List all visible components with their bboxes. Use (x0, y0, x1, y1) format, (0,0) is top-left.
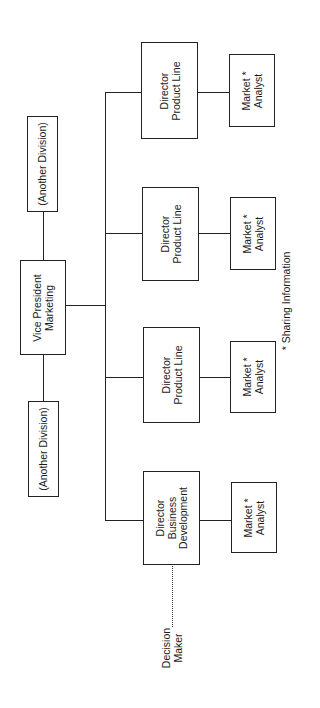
footnote-text: * Sharing Information (281, 252, 293, 351)
peer-division-label: (Another Division) (37, 122, 49, 205)
connector-bus-to-director-1 (105, 92, 141, 93)
director-box-2: Director Product Line (142, 187, 199, 281)
decision-maker-dotted-line (172, 566, 173, 627)
connector-peer-top-to-vp (43, 211, 44, 260)
analyst-line1: Market * (241, 71, 253, 110)
market-analyst-box-4: Market * Analyst (231, 482, 277, 553)
connector-bus-to-director-2 (105, 233, 142, 234)
decision-maker-line2: Maker (172, 628, 184, 668)
peer-division-box-top: (Another Division) (27, 116, 58, 212)
vp-title-line1: Vice President (32, 274, 44, 342)
connector-bus-to-director-4 (105, 520, 143, 521)
director-line2: Product Line (172, 346, 184, 405)
market-analyst-box-2: Market * Analyst (230, 197, 276, 270)
director-line1: Director (158, 61, 170, 120)
analyst-line1: Market * (242, 214, 254, 253)
director-line2: Product Line (170, 61, 182, 120)
connector-director-3-to-analyst (199, 377, 230, 378)
vp-marketing-box: Vice President Marketing (20, 260, 66, 355)
analyst-line2: Analyst (253, 214, 265, 253)
connector-vp-to-peer-bottom (43, 354, 44, 401)
market-analyst-box-3: Market * Analyst (230, 341, 276, 413)
peer-division-label: (Another Division) (38, 407, 50, 490)
market-analyst-box-1: Market * Analyst (229, 54, 275, 127)
vp-title-line2: Marketing (43, 274, 55, 342)
connector-director-4-to-analyst (199, 520, 231, 521)
analyst-line2: Analyst (252, 71, 264, 110)
connector-vp-to-bus (65, 305, 105, 306)
director-box-1: Director Product Line (141, 42, 198, 139)
analyst-line2: Analyst (254, 498, 266, 537)
director-line2: Product Line (171, 205, 183, 264)
director-box-3: Director Product Line (143, 327, 200, 423)
director-line2: Business (166, 487, 178, 549)
analyst-line2: Analyst (253, 357, 265, 396)
connector-director-2-to-analyst (198, 233, 230, 234)
analyst-line1: Market * (242, 357, 254, 396)
director-line1: Director (159, 205, 171, 264)
director-bus-line (105, 92, 106, 520)
connector-bus-to-director-3 (105, 377, 143, 378)
analyst-line1: Market * (243, 498, 255, 537)
decision-maker-line1: Decision (161, 628, 173, 668)
director-box-business-development: Director Business Development (143, 471, 200, 565)
director-line3: Development (177, 487, 189, 549)
director-line1: Director (154, 487, 166, 549)
connector-director-1-to-analyst (197, 92, 229, 93)
peer-division-box-bottom: (Another Division) (28, 401, 59, 497)
director-line1: Director (160, 346, 172, 405)
